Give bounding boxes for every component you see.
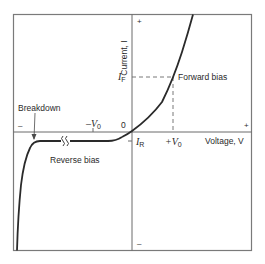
pos-v0-label: +V0 — [165, 136, 182, 148]
reverse-bias-curve — [70, 137, 122, 141]
breakdown-label: Breakdown — [18, 103, 61, 113]
x-plus-sign: + — [244, 121, 249, 130]
forward-bias-label: Forward bias — [178, 72, 227, 82]
voltage-axis-label: Voltage, V — [205, 136, 244, 146]
diode-iv-diagram: Breakdown Reverse bias Forward bias Volt… — [0, 0, 265, 264]
breakdown-arrowhead-icon — [32, 134, 37, 140]
ir-label: IR — [135, 136, 144, 148]
y-minus-sign: – — [137, 239, 142, 248]
y-plus-sign: + — [137, 17, 142, 26]
origin-label: 0 — [121, 120, 126, 130]
neg-v0-label: –V0 — [85, 118, 101, 130]
reverse-bias-label: Reverse bias — [50, 155, 100, 165]
x-minus-sign: – — [18, 121, 23, 130]
